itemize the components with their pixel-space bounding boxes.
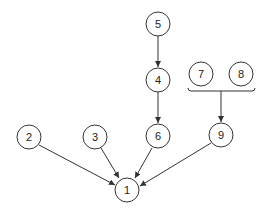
node-5-label: 5: [155, 18, 161, 30]
node-2-label: 2: [26, 131, 32, 143]
diagram-canvas: 1 2 3 4 5 6 7 8 9: [0, 0, 269, 216]
node-1-label: 1: [124, 184, 130, 196]
node-4-label: 4: [155, 74, 161, 86]
node-5: 5: [146, 12, 170, 36]
node-9-label: 9: [218, 129, 224, 141]
node-8: 8: [229, 62, 253, 86]
node-9: 9: [209, 123, 233, 147]
node-8-label: 8: [238, 68, 244, 80]
node-6: 6: [146, 124, 170, 148]
node-1: 1: [115, 178, 139, 202]
node-4: 4: [146, 68, 170, 92]
node-3: 3: [83, 125, 107, 149]
node-7-label: 7: [198, 68, 204, 80]
edge-2-to-1: [39, 145, 115, 185]
node-2: 2: [17, 125, 41, 149]
node-3-label: 3: [92, 131, 98, 143]
edge-3-to-1: [101, 148, 119, 178]
node-7: 7: [189, 62, 213, 86]
join-bracket-7-8: [188, 88, 255, 91]
node-6-label: 6: [155, 130, 161, 142]
edge-6-to-1: [135, 148, 152, 178]
